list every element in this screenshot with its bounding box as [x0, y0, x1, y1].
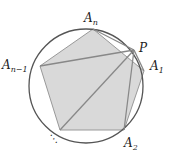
label-an-1: An−1 [1, 58, 28, 74]
label-an: An [83, 11, 98, 27]
label-dots: ⋱ [48, 133, 58, 144]
polygon [40, 29, 144, 130]
label-a2: A2 [123, 136, 138, 152]
label-a1: A1 [149, 59, 164, 75]
polygon-diagram: An An−1 P A1 A2 ⋱ [0, 0, 173, 152]
label-p: P [138, 41, 148, 55]
